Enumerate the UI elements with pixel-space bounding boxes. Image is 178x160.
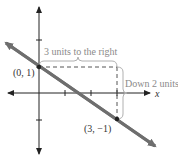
coordinate-plane: x (0, 1) (3, −1) 3 units to the right Do… xyxy=(0,0,178,160)
point-label-0-1: (0, 1) xyxy=(13,67,35,79)
vertical-annotation: Down 2 units xyxy=(125,78,178,89)
x-axis-label: x xyxy=(154,88,160,99)
point-label-3-neg1: (3, −1) xyxy=(84,123,111,135)
point-3-neg1 xyxy=(115,117,119,121)
point-0-1 xyxy=(37,65,41,69)
graph-line-arrow xyxy=(6,43,155,146)
horizontal-brace xyxy=(39,57,117,67)
horizontal-annotation: 3 units to the right xyxy=(44,46,118,57)
